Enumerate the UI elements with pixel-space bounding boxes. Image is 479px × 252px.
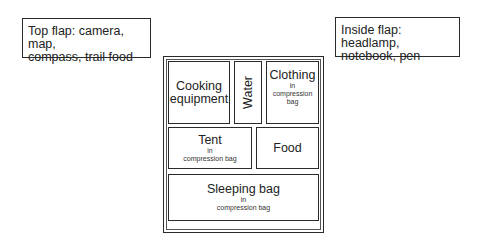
clothing-sub1: in <box>290 82 295 90</box>
compartment-cooking: Cooking equipment <box>168 61 230 124</box>
clothing-sub2: compression <box>273 90 313 98</box>
clothing-sub3: bag <box>287 98 299 106</box>
inside-flap-line2: notebook, pen <box>341 50 459 63</box>
sleeping-bag-label: Sleeping bag <box>207 183 280 196</box>
cooking-label-line1: Cooking <box>176 80 222 93</box>
top-flap-box: Top flap: camera, map, compass, trail fo… <box>22 18 151 58</box>
tent-sub1: in <box>207 147 212 155</box>
clothing-label: Clothing <box>270 69 316 82</box>
cooking-label-line2: equipment <box>170 93 228 106</box>
tent-label: Tent <box>198 134 222 147</box>
food-label: Food <box>273 142 302 155</box>
inside-flap-line1: Inside flap: headlamp, <box>341 24 459 50</box>
sleeping-bag-sub2: compression bag <box>217 204 270 212</box>
water-label: Water <box>241 76 255 109</box>
compartment-clothing: Clothing in compression bag <box>266 61 319 124</box>
top-flap-line1: Top flap: camera, map, <box>28 25 150 51</box>
compartment-sleeping-bag: Sleeping bag in compression bag <box>168 174 319 221</box>
sleeping-bag-sub1: in <box>241 196 246 204</box>
compartment-water: Water <box>234 61 262 124</box>
compartment-food: Food <box>256 127 319 169</box>
inside-flap-box: Inside flap: headlamp, notebook, pen <box>335 17 460 57</box>
top-flap-line2: compass, trail food <box>28 51 150 64</box>
compartment-tent: Tent in compression bag <box>168 127 252 169</box>
tent-sub2: compression bag <box>183 155 236 163</box>
